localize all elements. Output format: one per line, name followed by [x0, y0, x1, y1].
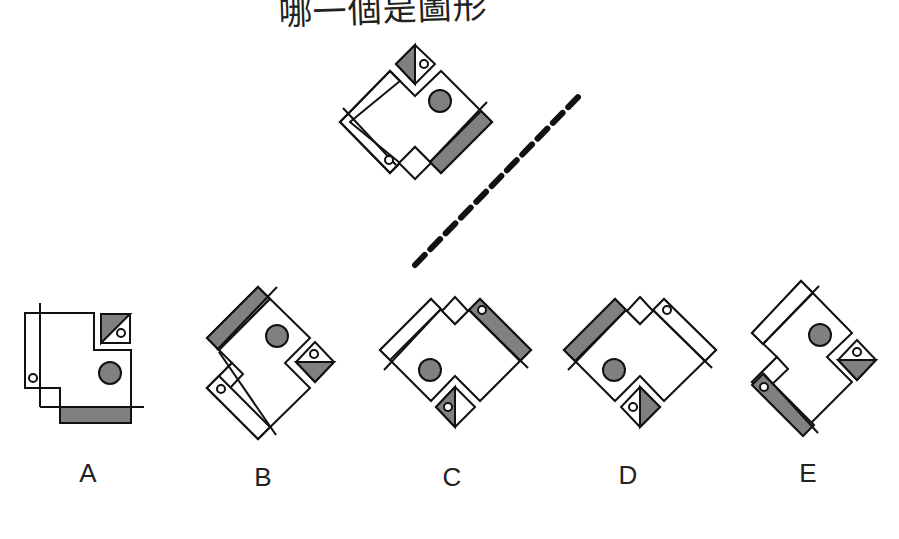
option-c-figure[interactable] — [380, 297, 531, 427]
option-d-figure[interactable] — [564, 297, 716, 427]
option-d-label[interactable]: D — [613, 460, 643, 491]
option-a-label[interactable]: A — [73, 458, 103, 489]
option-b-figure[interactable] — [207, 287, 334, 439]
option-a-figure[interactable] — [25, 303, 144, 423]
diagram-canvas — [0, 0, 899, 539]
option-c-label[interactable]: C — [437, 462, 467, 493]
mirror-line — [415, 95, 580, 265]
option-e-figure[interactable] — [752, 281, 876, 436]
option-e-label[interactable]: E — [793, 458, 823, 489]
option-b-label[interactable]: B — [248, 462, 278, 493]
reference-figure — [340, 45, 492, 179]
